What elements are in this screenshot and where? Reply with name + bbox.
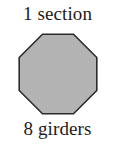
section-count-label: 1 section	[0, 3, 115, 25]
octagon-polygon	[19, 34, 97, 114]
girder-count-label: 8 girders	[0, 118, 115, 140]
figure-container: 1 section 8 girders	[0, 0, 115, 147]
octagon-shape-area	[0, 33, 115, 117]
octagon-icon	[18, 33, 98, 115]
